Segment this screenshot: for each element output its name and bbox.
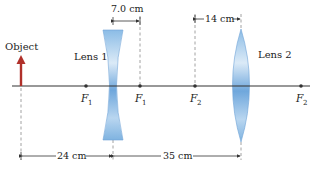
focal-label-f1-right: F 1 (134, 92, 146, 107)
dimension-focal2-label: 14 cm (205, 13, 234, 24)
object-arrow-icon (17, 55, 26, 86)
lens1-shape (103, 30, 123, 140)
dimension-object-lens1-label: 24 cm (57, 150, 86, 161)
focal-label-f2-left: F 2 (189, 92, 201, 107)
svg-text:1: 1 (88, 99, 92, 107)
focal-label-f2-right: F 2 (295, 92, 307, 107)
svg-text:1: 1 (142, 99, 146, 107)
lens1-label: Lens 1 (74, 51, 108, 62)
focal-label-f1-left: F 1 (80, 92, 92, 107)
focal-dot-f2-left (193, 84, 197, 88)
lens2-label: Lens 2 (258, 49, 292, 60)
svg-text:2: 2 (303, 99, 307, 107)
dimension-focal1-label: 7.0 cm (111, 3, 143, 14)
focal-dot-f1-left (84, 84, 88, 88)
focal-dot-f1-right (138, 84, 142, 88)
guide-lines (21, 14, 241, 160)
dimension-lens1-lens2-label: 35 cm (163, 150, 192, 161)
object-label: Object (5, 41, 38, 52)
focal-dot-f2-right (299, 84, 303, 88)
optics-diagram: Object Lens 1 Lens 2 F 1 F 1 F 2 F 2 7.0… (0, 0, 317, 171)
dimension-focal1 (113, 17, 140, 25)
svg-text:2: 2 (197, 99, 201, 107)
